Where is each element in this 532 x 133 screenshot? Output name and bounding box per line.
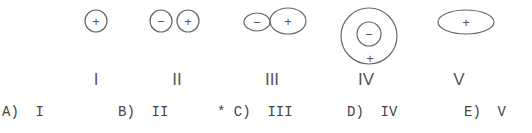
charge-diagrams: + − + − + − + + xyxy=(0,0,532,70)
answer-e[interactable]: E) V xyxy=(464,104,506,120)
plus-sign: + xyxy=(184,14,192,29)
figure-label-i: I xyxy=(94,70,99,90)
answer-b[interactable]: B) II xyxy=(118,104,168,120)
answer-c[interactable]: * C) III xyxy=(217,104,293,120)
minus-sign: − xyxy=(253,15,261,30)
figure-label-ii: II xyxy=(172,70,181,90)
plus-sign: + xyxy=(366,51,374,66)
figure-label-iii: III xyxy=(265,70,279,90)
minus-sign: − xyxy=(365,27,373,42)
figure-label-iv: IV xyxy=(358,70,374,90)
answer-d[interactable]: D) IV xyxy=(347,104,397,120)
plus-sign: + xyxy=(284,14,292,29)
plus-sign: + xyxy=(92,14,100,29)
plus-sign: + xyxy=(462,15,470,30)
answer-a[interactable]: A) I xyxy=(2,104,44,120)
figure-label-v: V xyxy=(453,70,464,90)
minus-sign: − xyxy=(157,14,165,29)
